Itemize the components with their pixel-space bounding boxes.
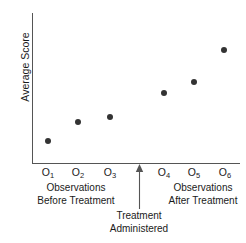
data-point-o2 [75,119,81,125]
data-point-o6 [221,47,227,53]
caption-observations-before: Observations Before Treatment [20,182,132,207]
x-tick-base-o4: O [158,166,166,178]
treatment-arrow-icon [135,164,144,209]
caption-after-line1: Observations [147,182,246,195]
data-point-o3 [107,114,113,120]
x-tick-label-o6: O6 [205,166,245,180]
x-tick-base-o5: O [188,166,196,178]
x-tick-sub-o4: 4 [166,171,170,180]
y-axis-title: Average Score [18,0,32,142]
scatter-chart-figure: Average Score O1 O2 O3 O4 O5 O6 Observat… [0,0,246,243]
caption-observations-after: Observations After Treatment [147,182,246,207]
caption-treatment-line2: Administered [79,223,199,236]
data-point-o5 [191,79,197,85]
caption-treatment-line1: Treatment [79,210,199,223]
y-axis-line [32,13,33,164]
x-tick-base-o3: O [104,166,112,178]
data-point-o4 [161,90,167,96]
x-tick-base-o2: O [72,166,80,178]
x-tick-sub-o3: 3 [112,171,116,180]
x-tick-sub-o1: 1 [50,171,54,180]
caption-before-line1: Observations [20,182,132,195]
x-tick-sub-o5: 5 [196,171,200,180]
caption-treatment-administered: Treatment Administered [79,210,199,235]
data-point-o1 [45,138,51,144]
x-tick-sub-o2: 2 [80,171,84,180]
x-tick-base-o6: O [219,166,227,178]
x-tick-label-o3: O3 [90,166,130,180]
caption-before-line2: Before Treatment [20,195,132,208]
x-tick-sub-o6: 6 [227,171,231,180]
caption-after-line2: After Treatment [147,195,246,208]
x-tick-base-o1: O [42,166,50,178]
